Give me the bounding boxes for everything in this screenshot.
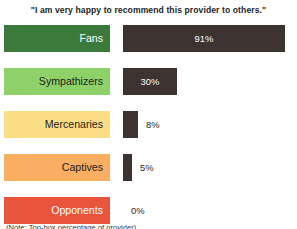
category-plate-opponents: Opponents bbox=[4, 197, 110, 224]
bar-track: 0% bbox=[123, 197, 297, 224]
category-label: Sympathizers bbox=[39, 76, 103, 87]
bar-track: 91% bbox=[123, 25, 297, 52]
chart-row-inner: Opponents0% bbox=[0, 197, 297, 224]
category-label: Fans bbox=[79, 33, 103, 44]
chart-row: Mercenaries8% bbox=[0, 108, 297, 151]
satisfaction-bar-chart: "I am very happy to recommend this provi… bbox=[0, 0, 297, 229]
chart-title: "I am very happy to recommend this provi… bbox=[0, 5, 297, 15]
chart-rows: Fans91%Sympathizers30%Mercenaries8%Capti… bbox=[0, 22, 297, 229]
chart-row: Sympathizers30% bbox=[0, 65, 297, 108]
category-plate-mercenaries: Mercenaries bbox=[4, 111, 110, 138]
category-label: Mercenaries bbox=[45, 119, 103, 130]
bar-value-label: 91% bbox=[123, 25, 285, 52]
chart-row: Fans91% bbox=[0, 22, 297, 65]
bar-value-label: 0% bbox=[131, 197, 145, 224]
bar-track: 5% bbox=[123, 154, 297, 181]
chart-row-inner: Fans91% bbox=[0, 25, 297, 52]
bar-track: 8% bbox=[123, 111, 297, 138]
category-plate-captives: Captives bbox=[4, 154, 110, 181]
chart-row: Captives5% bbox=[0, 151, 297, 194]
chart-footnote: (Note: Top-box percentage of provider) bbox=[6, 223, 136, 229]
bar-fill bbox=[123, 111, 138, 138]
chart-row-inner: Mercenaries8% bbox=[0, 111, 297, 138]
category-label: Captives bbox=[62, 162, 103, 173]
category-label: Opponents bbox=[51, 205, 103, 216]
category-plate-fans: Fans bbox=[4, 25, 110, 52]
category-plate-sympathizers: Sympathizers bbox=[4, 68, 110, 95]
bar-value-label: 8% bbox=[146, 111, 160, 138]
bar-value-label: 30% bbox=[123, 68, 177, 95]
bar-fill bbox=[123, 154, 132, 181]
chart-row-inner: Sympathizers30% bbox=[0, 68, 297, 95]
chart-row-inner: Captives5% bbox=[0, 154, 297, 181]
bar-value-label: 5% bbox=[140, 154, 154, 181]
bar-track: 30% bbox=[123, 68, 297, 95]
